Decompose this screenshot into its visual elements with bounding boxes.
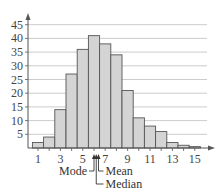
bar-5 [77, 49, 88, 148]
bar-12 [156, 132, 167, 148]
bar-7 [100, 44, 111, 148]
bar-10 [133, 118, 144, 148]
mean-label: Mean [105, 164, 132, 178]
histogram-chart: 51015202530354045 13579111315 ModeMeanMe… [0, 0, 219, 188]
y-tick-label: 45 [11, 18, 23, 32]
bar-2 [44, 137, 55, 148]
y-tick-label: 10 [11, 114, 23, 128]
bar-1 [32, 143, 43, 148]
y-tick-label: 5 [17, 127, 23, 141]
y-tick-label: 35 [11, 45, 23, 59]
bar-8 [111, 55, 122, 148]
x-tick-label: 1 [35, 152, 41, 166]
bar-13 [167, 143, 178, 148]
x-tick-label: 15 [189, 152, 201, 166]
bar-11 [144, 126, 155, 148]
bar-3 [55, 110, 66, 148]
y-axis-arrow-icon [26, 13, 31, 20]
y-tick-label: 20 [11, 86, 23, 100]
histogram-bars [32, 36, 200, 148]
y-tick-label: 25 [11, 73, 23, 87]
x-tick-label: 13 [166, 152, 178, 166]
x-tick-label: 11 [144, 152, 156, 166]
bar-6 [88, 36, 99, 148]
y-tick-label: 15 [11, 100, 23, 114]
y-axis-ticks: 51015202530354045 [11, 18, 28, 142]
bar-4 [66, 74, 77, 148]
y-tick-label: 30 [11, 59, 23, 73]
bar-9 [122, 90, 133, 148]
y-tick-label: 40 [11, 31, 23, 45]
median-label: Median [105, 177, 142, 188]
mode-leader [89, 159, 94, 171]
mode-label: Mode [59, 164, 87, 178]
x-axis-arrow-icon [208, 146, 215, 151]
